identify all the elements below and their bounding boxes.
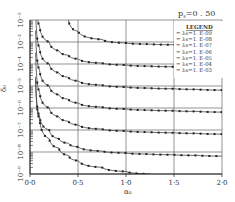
- data-marker: [193, 110, 195, 112]
- data-marker: [193, 132, 195, 134]
- data-marker: [56, 93, 58, 95]
- data-marker: [137, 109, 139, 111]
- data-marker: [74, 124, 76, 126]
- data-marker: [97, 38, 99, 40]
- data-marker: [186, 132, 188, 134]
- data-marker: [50, 46, 52, 48]
- data-marker: [88, 83, 90, 85]
- data-marker: [69, 157, 71, 159]
- data-marker: [132, 43, 134, 45]
- data-marker: [76, 146, 78, 148]
- data-marker: [42, 102, 44, 104]
- legend-item: = λs=1. E-08: [176, 36, 212, 42]
- data-marker: [62, 119, 64, 121]
- data-marker: [56, 49, 58, 51]
- data-marker: [158, 66, 160, 68]
- data-marker: [87, 165, 89, 167]
- data-marker: [102, 128, 104, 130]
- data-marker: [81, 104, 83, 106]
- data-marker: [47, 62, 49, 64]
- data-marker: [173, 154, 175, 156]
- data-marker: [62, 97, 64, 99]
- data-marker: [165, 132, 167, 134]
- data-marker: [74, 102, 76, 104]
- data-marker: [74, 80, 76, 82]
- data-marker: [37, 113, 39, 115]
- data-marker: [123, 64, 125, 66]
- data-marker: [165, 88, 167, 90]
- data-marker: [200, 89, 202, 91]
- data-marker: [179, 110, 181, 112]
- data-marker: [42, 58, 44, 60]
- data-marker: [172, 66, 174, 68]
- data-marker: [201, 155, 203, 157]
- data-marker: [144, 87, 146, 89]
- data-marker: [139, 43, 141, 45]
- data-marker: [42, 80, 44, 82]
- data-marker: [180, 154, 182, 156]
- data-marker: [88, 105, 90, 107]
- data-marker: [78, 32, 80, 34]
- data-marker: [165, 66, 167, 68]
- data-marker: [130, 109, 132, 111]
- data-marker: [95, 106, 97, 108]
- data-marker: [158, 110, 160, 112]
- data-marker: [116, 86, 118, 88]
- data-marker: [187, 154, 189, 156]
- data-marker: [151, 109, 153, 111]
- data-marker: [179, 132, 181, 134]
- data-marker: [194, 154, 196, 156]
- data-marker: [145, 153, 147, 155]
- data-marker: [84, 35, 86, 37]
- data-marker: [111, 41, 113, 43]
- data-marker: [151, 131, 153, 133]
- data-marker: [104, 40, 106, 42]
- data-marker: [109, 129, 111, 131]
- data-marker: [137, 87, 139, 89]
- data-marker: [208, 155, 210, 157]
- data-marker: [39, 29, 41, 31]
- y-tick-label: 10⁻³: [17, 34, 25, 50]
- data-marker: [110, 152, 112, 154]
- data-marker: [123, 108, 125, 110]
- data-marker: [36, 38, 38, 40]
- data-marker: [102, 106, 104, 108]
- data-marker: [95, 62, 97, 64]
- data-marker: [63, 142, 65, 144]
- data-marker: [42, 126, 44, 128]
- data-marker: [137, 65, 139, 67]
- legend-item: = λs=1. E-09: [176, 30, 212, 36]
- data-marker: [104, 151, 106, 153]
- data-marker: [47, 106, 49, 108]
- data-marker: [122, 170, 124, 172]
- series-line: [36, 80, 150, 174]
- x-tick-label: 2·0: [216, 179, 227, 187]
- x-tick-label: 1·0: [120, 179, 131, 187]
- data-marker: [36, 106, 38, 108]
- data-marker: [42, 36, 44, 38]
- data-marker: [108, 169, 110, 171]
- data-marker: [48, 129, 50, 131]
- legend: LEGEND = λs=1. E-09= λs=1. E-08= λs=1. E…: [174, 21, 223, 78]
- data-marker: [63, 153, 65, 155]
- data-marker: [186, 110, 188, 112]
- y-tick-label: 10⁻⁵: [17, 78, 25, 94]
- data-marker: [52, 135, 54, 137]
- data-marker: [186, 88, 188, 90]
- data-marker: [97, 150, 99, 152]
- data-marker: [158, 132, 160, 134]
- y-tick-label: 10⁻²: [17, 12, 25, 28]
- data-marker: [39, 95, 41, 97]
- data-marker: [144, 65, 146, 67]
- data-marker: [81, 60, 83, 62]
- data-marker: [95, 84, 97, 86]
- data-marker: [116, 64, 118, 66]
- data-marker: [72, 28, 74, 30]
- data-marker: [144, 131, 146, 133]
- data-marker: [68, 55, 70, 57]
- data-marker: [165, 110, 167, 112]
- data-marker: [172, 110, 174, 112]
- data-marker: [115, 170, 117, 172]
- data-marker: [146, 43, 148, 45]
- data-marker: [214, 111, 216, 113]
